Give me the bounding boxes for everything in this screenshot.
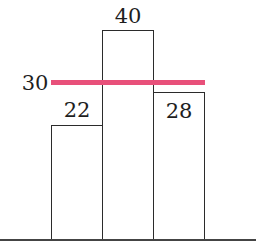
bar-label-28: 28 bbox=[153, 101, 205, 122]
x-axis-baseline bbox=[0, 239, 256, 241]
bar-22 bbox=[51, 125, 103, 240]
bar-40 bbox=[102, 30, 154, 240]
bar-label-22: 22 bbox=[51, 100, 103, 121]
reference-line-30 bbox=[51, 80, 205, 85]
bar-chart: 30 22 40 28 bbox=[0, 0, 256, 244]
bar-label-40: 40 bbox=[102, 6, 154, 27]
reference-label: 30 bbox=[20, 73, 50, 94]
